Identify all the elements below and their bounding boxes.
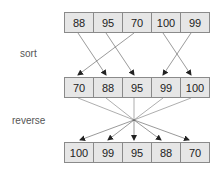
array-cell: 100 (180, 77, 210, 98)
array-cell: 95 (122, 77, 152, 98)
original-array: 88 95 70 100 99 (64, 12, 210, 32)
array-cell: 99 (151, 77, 181, 98)
reverse-label: reverse (12, 115, 45, 126)
array-cell: 70 (64, 77, 94, 98)
array-cell: 95 (93, 12, 123, 33)
array-cell: 70 (122, 12, 152, 33)
sorted-array: 70 88 95 99 100 (64, 77, 210, 97)
array-cell: 99 (93, 142, 123, 163)
array-cell: 100 (64, 142, 94, 163)
array-cell: 88 (64, 12, 94, 33)
array-cell: 100 (151, 12, 181, 33)
array-cell: 70 (180, 142, 210, 163)
sort-label: sort (20, 48, 37, 59)
reversed-array: 100 99 95 88 70 (64, 142, 210, 162)
array-cell: 88 (151, 142, 181, 163)
array-cell: 95 (122, 142, 152, 163)
array-cell: 88 (93, 77, 123, 98)
array-cell: 99 (180, 12, 210, 33)
